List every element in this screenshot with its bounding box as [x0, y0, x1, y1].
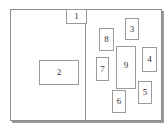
box-label: 2 [57, 68, 62, 77]
box-1: 1 [66, 9, 87, 24]
box-7: 7 [96, 57, 109, 81]
diagram-frame: 1 2 3 8 9 7 4 5 6 [10, 9, 162, 121]
box-8: 8 [99, 28, 114, 51]
box-label: 8 [104, 35, 109, 44]
box-6: 6 [112, 90, 126, 113]
box-label: 4 [147, 55, 152, 64]
box-label: 7 [100, 65, 105, 74]
box-label: 3 [130, 25, 135, 34]
panel-divider [85, 10, 86, 120]
box-label: 5 [143, 88, 148, 97]
box-label: 6 [117, 97, 122, 106]
box-3: 3 [125, 18, 139, 40]
box-label: 1 [74, 12, 79, 21]
box-4: 4 [142, 47, 157, 72]
box-5: 5 [138, 81, 152, 104]
box-2: 2 [39, 60, 79, 85]
box-9: 9 [116, 46, 136, 89]
box-label: 9 [124, 61, 129, 70]
